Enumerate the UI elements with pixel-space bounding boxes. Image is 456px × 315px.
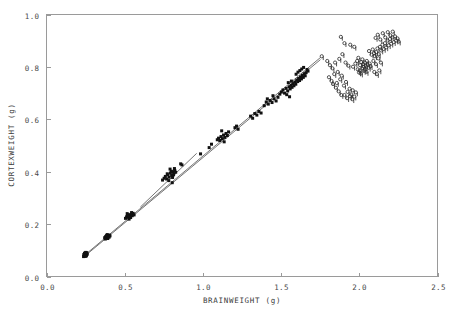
data-point: [174, 171, 177, 174]
data-point: [281, 88, 284, 91]
data-point: [170, 170, 173, 173]
data-point: [288, 95, 291, 98]
data-point: [285, 87, 288, 90]
x-tick-label: 0.5: [118, 283, 133, 292]
data-point: [267, 103, 270, 106]
data-point: [180, 163, 183, 166]
data-point: [166, 172, 169, 175]
x-tick-label: 1.5: [274, 283, 289, 292]
data-point: [83, 254, 86, 257]
data-point: [220, 129, 223, 132]
data-point: [227, 130, 230, 133]
scatter-plot-figure: 0.00.51.01.52.02.5 0.00.20.40.60.81.0 BR…: [0, 0, 456, 315]
data-point: [260, 112, 263, 115]
data-point: [199, 152, 202, 155]
data-point: [304, 74, 307, 77]
y-tick-label: 0.4: [25, 169, 40, 178]
x-tick-label: 2.5: [431, 283, 446, 292]
x-tick-label: 2.0: [352, 283, 367, 292]
x-axis-title: BRAINWEIGHT (g): [203, 296, 281, 305]
data-point: [263, 104, 266, 107]
plot-canvas: 0.00.51.01.52.02.5 0.00.20.40.60.81.0 BR…: [0, 0, 456, 315]
y-tick-label: 0.0: [25, 274, 40, 283]
data-point: [302, 66, 305, 69]
data-point: [108, 236, 111, 239]
data-point: [271, 94, 274, 97]
data-point: [226, 134, 229, 137]
x-tick-label: 1.0: [196, 283, 211, 292]
data-point: [237, 128, 240, 131]
data-point: [171, 176, 174, 179]
y-tick-label: 1.0: [25, 12, 40, 21]
data-point: [290, 80, 293, 83]
data-point: [173, 167, 176, 170]
data-point: [223, 140, 226, 143]
data-point: [130, 211, 133, 214]
data-point: [171, 181, 174, 184]
data-point: [251, 117, 254, 120]
data-point: [210, 143, 213, 146]
data-point: [294, 83, 297, 86]
data-point: [235, 125, 238, 128]
y-tick-label: 0.6: [25, 116, 40, 125]
data-point: [104, 235, 107, 238]
y-axis-title: CORTEXWEIGHT (g): [7, 103, 16, 186]
data-point: [271, 101, 274, 104]
data-point: [287, 81, 290, 84]
data-point: [167, 179, 170, 182]
data-point: [285, 93, 288, 96]
y-tick-label: 0.8: [25, 64, 40, 73]
data-point: [307, 70, 310, 73]
x-tick-label: 0.0: [40, 283, 55, 292]
data-point: [275, 99, 278, 102]
data-point: [295, 73, 298, 76]
data-point: [172, 173, 175, 176]
data-point: [255, 114, 258, 117]
data-point: [129, 216, 132, 219]
y-tick-label: 0.2: [25, 221, 40, 230]
data-point: [208, 146, 211, 149]
data-point: [266, 97, 269, 100]
data-point: [276, 96, 279, 99]
